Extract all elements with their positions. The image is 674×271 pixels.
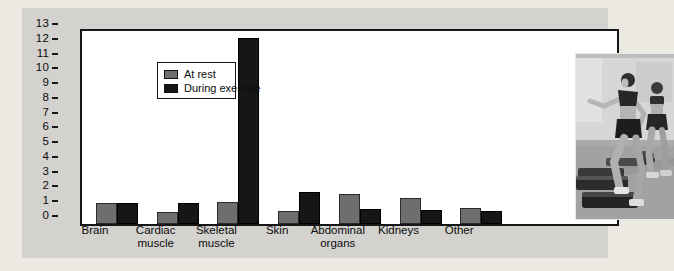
y-tick-mark (52, 67, 58, 69)
bar-at-rest-kidneys (400, 198, 421, 224)
bar-during-exercise-kidneys (421, 210, 442, 224)
bar-during-exercise-skeletal-muscle (238, 38, 259, 224)
y-tick-mark (52, 82, 58, 84)
y-tick-label: 4 (19, 150, 49, 162)
y-tick-label: 2 (19, 179, 49, 191)
y-tick-mark (52, 141, 58, 143)
at-rest-swatch (164, 70, 178, 79)
bar-at-rest-abdominal-organs (339, 194, 360, 224)
bar-during-exercise-brain (117, 203, 138, 224)
y-tick-label: 0 (19, 209, 49, 221)
y-tick-mark (52, 185, 58, 187)
bar-series-container (82, 31, 617, 224)
y-tick-mark (52, 200, 58, 202)
chart-legend: At rest During exercise (157, 62, 236, 99)
legend-label: During exercise (184, 82, 260, 94)
y-tick-label: 10 (19, 61, 49, 73)
y-tick-label: 1 (19, 194, 49, 206)
legend-item-during-exercise: During exercise (164, 81, 235, 95)
y-tick-mark (52, 97, 58, 99)
x-category-label-other: Other (423, 224, 495, 237)
y-tick-label: 13 (19, 17, 49, 29)
y-tick-label: 8 (19, 91, 49, 103)
bar-at-rest-cardiac-muscle (157, 212, 178, 224)
legend-label: At rest (184, 68, 216, 80)
y-tick-mark (52, 215, 58, 217)
y-tick-label: 9 (19, 76, 49, 88)
bar-at-rest-skin (278, 211, 299, 224)
y-tick-label: 3 (19, 165, 49, 177)
bar-during-exercise-cardiac-muscle (178, 203, 199, 224)
legend-item-at-rest: At rest (164, 67, 235, 81)
y-tick-mark (52, 112, 58, 114)
bar-during-exercise-abdominal-organs (360, 209, 381, 224)
bar-during-exercise-skin (299, 192, 320, 224)
bar-at-rest-skeletal-muscle (217, 202, 238, 224)
bar-during-exercise-other (481, 211, 502, 224)
step-aerobics-photo (576, 54, 674, 219)
y-tick-label: 11 (19, 47, 49, 59)
y-tick-mark (52, 156, 58, 158)
figure-panel: Blood flow (L/min) At rest During exerci… (22, 8, 608, 258)
bar-at-rest-brain (96, 203, 117, 224)
y-tick-label: 5 (19, 135, 49, 147)
during-exercise-swatch (164, 84, 178, 93)
y-tick-label: 6 (19, 120, 49, 132)
y-tick-mark (52, 171, 58, 173)
y-tick-mark (52, 126, 58, 128)
y-tick-mark (52, 53, 58, 55)
plot-area: At rest During exercise (80, 29, 619, 226)
y-tick-label: 12 (19, 32, 49, 44)
y-tick-mark (52, 23, 58, 25)
bar-at-rest-other (460, 208, 481, 224)
y-tick-mark (52, 38, 58, 40)
y-tick-label: 7 (19, 106, 49, 118)
